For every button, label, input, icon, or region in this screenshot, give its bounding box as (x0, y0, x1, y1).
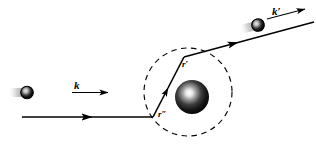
label-position-vector-r-prime: r′ (182, 60, 188, 69)
figure-canvas (0, 0, 316, 146)
central-sphere (175, 80, 209, 114)
scattering-figure: k k′ r′ r″ (0, 0, 316, 146)
scattered-particle (238, 17, 266, 36)
label-position-vector-r-double-prime: r″ (158, 110, 166, 119)
label-scattered-wavevector: k′ (272, 6, 281, 17)
label-incident-wavevector: k (74, 80, 80, 91)
incident-particle (8, 86, 33, 99)
